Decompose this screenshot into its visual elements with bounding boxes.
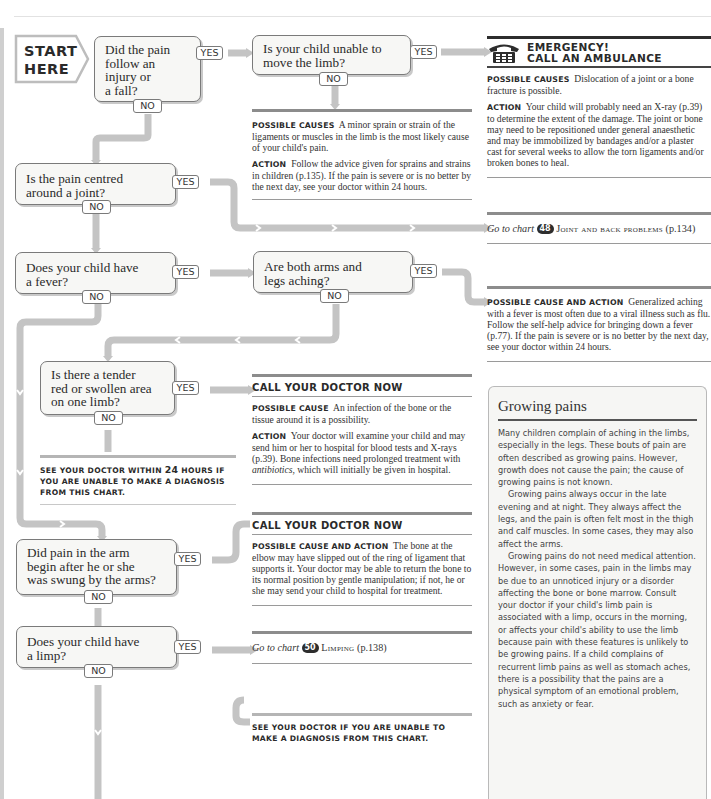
causes-label: Possible causes [487,75,569,84]
start-label-line1: START [24,42,86,60]
q6-no-label[interactable]: NO [94,411,123,425]
sidebar-title: Growing pains [498,395,697,421]
panel-rule [252,534,472,535]
call-doctor-now-heading: CALL YOUR DOCTOR NOW [252,515,472,534]
q4-no-label[interactable]: NO [82,290,111,304]
question-text-line: injury or [105,70,190,84]
question-text-line: Did pain in the arm [27,546,166,560]
see-doctor-final-text: See your doctor if you are unable to mak… [252,716,472,744]
question-text-line: Is the pain centred [26,172,165,186]
question-text-line: red or swollen area [51,382,164,396]
action-label: Action [252,160,286,169]
question-text-line: was swung by the arms? [27,573,166,587]
infection-action: Action Your doctor will examine your chi… [252,430,472,475]
viral-illness-panel: Possible cause and action Generalized ac… [487,286,711,362]
question-unable-to-move-limb: Is your child unable to move the limb? [252,35,411,75]
emergency-action: Action Your child will probably need an … [487,101,711,168]
panel-bottom-rule [252,605,472,606]
q6-yes-label[interactable]: YES [172,381,199,395]
question-text-line: Did the pain [105,43,190,57]
infection-call-doctor-panel: CALL YOUR DOCTOR NOW Possible cause An i… [252,374,472,485]
panel-bottom-rule [252,484,472,485]
question-child-has-fever: Does your child have a fever? [15,252,176,294]
sprain-result-panel: Possible causes A minor sprain or strain… [252,109,472,200]
q2-yes-label[interactable]: YES [410,45,437,59]
emergency-causes: Possible causes Dislocation of a joint o… [487,73,711,96]
note-text: See your doctor within [40,466,165,475]
question-pain-around-joint: Is the pain centred around a joint? [15,163,176,205]
chart-number-badge: 48 [537,224,554,234]
question-text-line: Are both arms and [264,260,402,274]
question-text-line: a fever? [26,275,165,289]
panel-bottom-rule [252,199,472,200]
q1-no-label[interactable]: NO [133,99,162,113]
goto-chart-48-link[interactable]: Go to chart 48 Joint and back problems (… [487,215,711,239]
chart-page: (p.134) [666,223,696,234]
action-label: Action [487,103,521,112]
q8-no-label[interactable]: NO [84,664,113,678]
question-text-line: Is your child unable to [263,42,400,56]
question-text-line: legs aching? [264,274,402,288]
action-text-italic: antibiotics [252,464,293,475]
cause-action-label: Possible cause and action [487,298,623,307]
growing-pains-sidebar: Growing pains Many children complain of … [488,386,707,799]
question-text-line: follow an [105,57,190,71]
chart-title: Joint and back problems [556,223,663,234]
question-arms-and-legs-aching: Are both arms and legs aching? [253,251,413,293]
question-child-has-limp: Does your child have a limp? [16,626,177,668]
call-doctor-now-heading: CALL YOUR DOCTOR NOW [252,377,472,396]
see-doctor-24-hours-note: See your doctor within 24 hours if you a… [40,455,236,505]
question-text-line: begin after he or she [27,560,166,574]
question-text-line: a fall? [105,84,190,98]
panel-rule [487,66,711,68]
q4-yes-label[interactable]: YES [172,265,199,279]
q8-yes-label[interactable]: YES [174,640,201,654]
q3-yes-label[interactable]: YES [172,175,199,189]
chart-page: (p.138) [357,642,387,653]
question-injury-or-fall: Did the pain follow an injury or a fall? [94,36,201,102]
sidebar-paragraph: Growing pains always occur in the late e… [498,488,697,549]
panel-bottom-rule [40,504,236,505]
q7-yes-label[interactable]: YES [174,552,201,566]
panel-bottom-rule [487,243,711,244]
emergency-subtitle: CALL AN AMBULANCE [527,53,662,64]
action-text-end: , which will initially be given in hospi… [293,464,451,475]
elbow-call-doctor-panel: CALL YOUR DOCTOR NOW Possible cause and … [252,512,472,606]
q5-yes-label[interactable]: YES [410,264,437,278]
viral-text: Possible cause and action Generalized ac… [487,296,711,352]
q2-no-label[interactable]: NO [319,72,348,86]
chart-title: Limping [321,642,354,653]
note-hours: 24 [165,464,179,475]
chart-number-badge: 50 [302,643,319,653]
sidebar-paragraph: Growing pains do not need medical attent… [498,550,697,710]
question-text-line: on one limb? [51,395,164,409]
question-text-line: around a joint? [26,186,165,200]
q3-no-label[interactable]: NO [82,200,111,214]
cause-label: Possible cause [252,404,329,413]
action-label: Action [252,432,286,441]
causes-label: Possible causes [252,121,334,130]
panel-rule [252,396,472,397]
goto-text: Go to chart [487,223,534,234]
question-text-line: a limp? [27,649,166,663]
see-doctor-24-text: See your doctor within 24 hours if you a… [40,458,236,504]
elbow-text: Possible cause and action The bone at th… [252,540,472,596]
question-text-line: move the limb? [263,56,400,70]
start-label-line2: HERE [24,60,86,78]
see-doctor-final-note: See your doctor if you are unable to mak… [252,713,472,744]
question-swung-by-arms: Did pain in the arm begin after he or sh… [16,539,177,595]
panel-top-bar [252,109,472,112]
goto-limping-chart-panel: Go to chart 50 Limping (p.138) [252,631,472,664]
q5-no-label[interactable]: NO [320,289,349,303]
question-text-line: Is there a tender [51,368,164,382]
sprain-causes: Possible causes A minor sprain or strain… [252,119,472,153]
q1-yes-label[interactable]: YES [196,46,223,60]
sidebar-paragraph: Many children complain of aching in the … [498,427,697,488]
goto-chart-50-link[interactable]: Go to chart 50 Limping (p.138) [252,634,472,660]
question-text-line: Does your child have [26,261,165,275]
infection-cause: Possible cause An infection of the bone … [252,402,472,425]
panel-bottom-rule [487,177,711,178]
telephone-icon [487,42,521,64]
question-tender-swollen-area: Is there a tender red or swollen area on… [40,361,175,415]
q7-no-label[interactable]: NO [84,590,113,604]
